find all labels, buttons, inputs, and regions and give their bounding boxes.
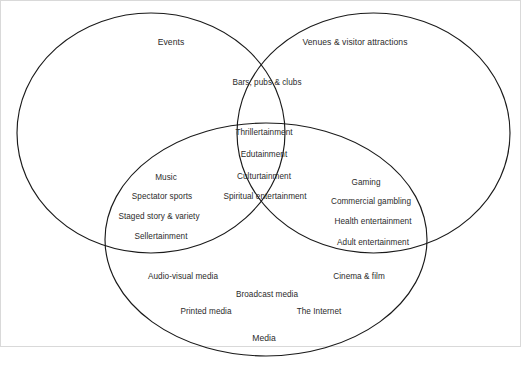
region-item-audio-visual-media: Audio-visual media [148, 272, 218, 283]
set-title-events: Events [158, 37, 185, 48]
region-item-thrillertainment: Thrillertainment [235, 128, 292, 139]
region-item-gaming: Gaming [352, 178, 381, 189]
region-item-broadcast-media: Broadcast media [236, 290, 298, 301]
region-item-bars-pubs-clubs: Bars, pubs & clubs [232, 78, 301, 89]
region-item-spectator-sports: Spectator sports [132, 192, 192, 203]
region-item-health-entertainment: Health entertainment [334, 217, 411, 228]
set-title-media: Media [252, 333, 276, 344]
venn-circles-group [0, 0, 523, 373]
set-title-venues: Venues & visitor attractions [295, 37, 415, 48]
region-item-cinema-film: Cinema & film [333, 272, 385, 283]
region-item-culturtainment: Culturtainment [237, 172, 291, 183]
region-item-spiritual-entertainment: Spiritual entertainment [223, 192, 306, 203]
region-item-commercial-gambling: Commercial gambling [331, 197, 411, 208]
region-item-staged-story-variety: Staged story & variety [118, 212, 199, 223]
region-item-edutainment: Edutainment [241, 150, 288, 161]
region-item-printed-media: Printed media [180, 307, 231, 318]
region-item-adult-entertainment: Adult entertainment [337, 238, 409, 249]
region-item-sellertainment: Sellertainment [134, 232, 187, 243]
venn-diagram-figure: Events Venues & visitor attractions Medi… [0, 0, 523, 373]
region-item-the-internet: The Internet [297, 307, 342, 318]
region-item-music: Music [155, 173, 177, 184]
